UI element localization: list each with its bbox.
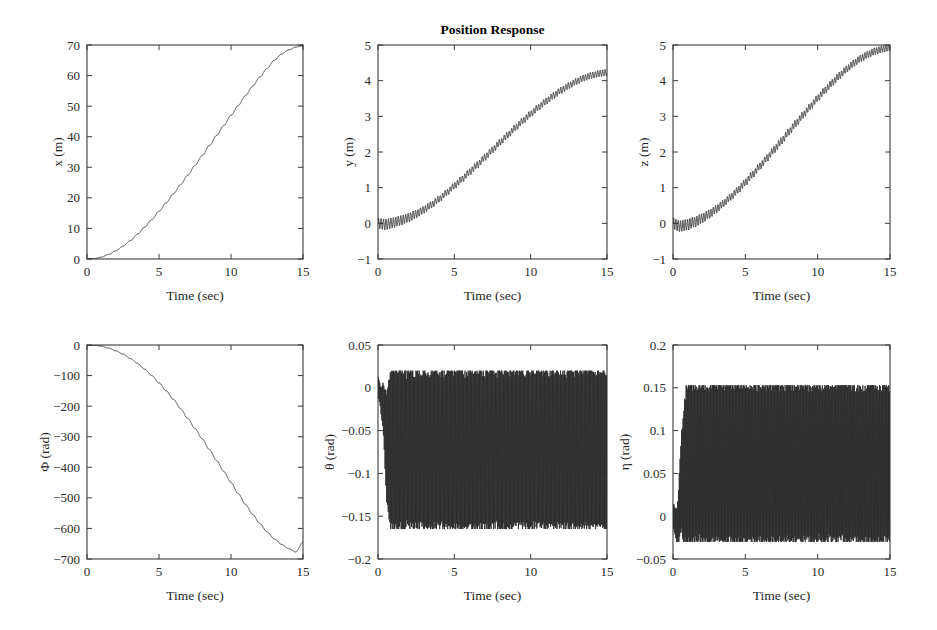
y-tick-label: 5 — [660, 38, 667, 53]
plot-title: Position Response — [441, 22, 545, 37]
y-tick-label: 0 — [74, 252, 81, 267]
y-tick-label: −0.2 — [347, 552, 371, 567]
y-tick-label: 0 — [660, 216, 667, 231]
x-tick-label: 10 — [225, 264, 238, 279]
x-tick-label: 5 — [156, 564, 163, 579]
y-tick-label: −700 — [53, 552, 80, 567]
x-tick-label: 10 — [811, 564, 824, 579]
y-tick-label: 30 — [67, 160, 80, 175]
x-tick-label: 15 — [297, 564, 310, 579]
x-tick-label: 15 — [884, 564, 897, 579]
x-tick-label: 15 — [601, 564, 614, 579]
x-tick-label: 0 — [84, 264, 91, 279]
x-tick-label: 0 — [670, 564, 677, 579]
y-axis-label: y (m) — [341, 137, 356, 167]
y-tick-label: −1 — [652, 252, 666, 267]
position-response-figure: 051015010203040506070Time (sec)x (m)0510… — [0, 0, 937, 630]
y-tick-label: 0.05 — [348, 338, 371, 353]
y-axis-label: θ (rad) — [322, 434, 337, 470]
x-tick-label: 0 — [375, 564, 382, 579]
y-tick-label: 70 — [67, 38, 80, 53]
y-tick-label: 0 — [660, 509, 667, 524]
y-tick-label: 1 — [365, 180, 372, 195]
x-tick-label: 10 — [524, 564, 537, 579]
y-tick-label: 50 — [67, 99, 80, 114]
x-tick-label: 10 — [811, 264, 824, 279]
y-axis-label: z (m) — [636, 138, 651, 167]
y-tick-label: −100 — [53, 368, 80, 383]
y-tick-label: −600 — [53, 521, 80, 536]
x-tick-label: 10 — [524, 264, 537, 279]
x-tick-label: 5 — [742, 564, 749, 579]
x-tick-label: 15 — [884, 264, 897, 279]
data-curve-theta-angle — [378, 371, 607, 529]
y-tick-label: 0 — [365, 216, 372, 231]
x-axis-label: Time (sec) — [464, 588, 522, 603]
y-tick-label: 0 — [365, 380, 372, 395]
y-tick-label: −1 — [357, 252, 371, 267]
x-tick-label: 15 — [601, 264, 614, 279]
y-tick-label: 20 — [67, 190, 80, 205]
x-axis-label: Time (sec) — [166, 588, 224, 603]
y-tick-label: −300 — [53, 429, 80, 444]
x-tick-label: 5 — [451, 564, 458, 579]
y-tick-label: 10 — [67, 221, 80, 236]
y-tick-label: 4 — [365, 73, 372, 88]
figure-container: 051015010203040506070Time (sec)x (m)0510… — [0, 0, 937, 630]
y-tick-label: 5 — [365, 38, 372, 53]
y-tick-label: −500 — [53, 490, 80, 505]
y-tick-label: 0 — [74, 338, 81, 353]
x-tick-label: 5 — [742, 264, 749, 279]
y-tick-label: 60 — [67, 68, 80, 83]
y-tick-label: 2 — [660, 145, 667, 160]
x-tick-label: 5 — [451, 264, 458, 279]
y-tick-label: −0.1 — [347, 466, 371, 481]
y-tick-label: 4 — [660, 73, 667, 88]
y-tick-label: 0.05 — [643, 466, 666, 481]
x-tick-label: 15 — [297, 264, 310, 279]
data-curve-eta-angle — [673, 385, 890, 542]
x-axis-label: Time (sec) — [464, 288, 522, 303]
y-tick-label: 1 — [660, 180, 667, 195]
x-tick-label: 5 — [156, 264, 163, 279]
y-tick-label: 3 — [365, 109, 372, 124]
y-tick-label: −0.05 — [636, 552, 666, 567]
y-tick-label: 0.2 — [650, 338, 666, 353]
y-tick-label: 40 — [67, 129, 80, 144]
y-axis-label: x (m) — [50, 137, 65, 167]
y-tick-label: 0.1 — [650, 423, 666, 438]
y-tick-label: −0.05 — [341, 423, 371, 438]
y-axis-label: Φ (rad) — [37, 432, 52, 471]
y-axis-label: η (rad) — [617, 434, 632, 471]
y-tick-label: −200 — [53, 399, 80, 414]
x-axis-label: Time (sec) — [753, 588, 811, 603]
y-tick-label: 0.15 — [643, 380, 666, 395]
y-tick-label: −0.15 — [341, 509, 371, 524]
x-axis-label: Time (sec) — [753, 288, 811, 303]
x-axis-label: Time (sec) — [166, 288, 224, 303]
x-tick-label: 10 — [225, 564, 238, 579]
x-tick-label: 0 — [375, 264, 382, 279]
x-tick-label: 0 — [670, 264, 677, 279]
y-tick-label: −400 — [53, 460, 80, 475]
y-tick-label: 3 — [660, 109, 667, 124]
y-tick-label: 2 — [365, 145, 372, 160]
x-tick-label: 0 — [84, 564, 91, 579]
